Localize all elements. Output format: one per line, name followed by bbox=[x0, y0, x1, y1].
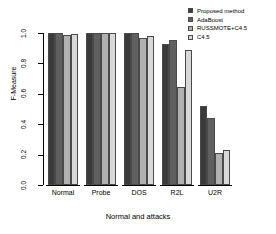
bar bbox=[139, 38, 147, 185]
legend-label: RUSSMOTE+C4.5 bbox=[197, 25, 247, 31]
legend-swatch-icon bbox=[188, 17, 193, 22]
plot-area bbox=[44, 33, 234, 185]
bar bbox=[200, 106, 208, 185]
bar bbox=[71, 34, 79, 185]
legend-item: AdaBoost bbox=[188, 16, 247, 24]
bar bbox=[147, 36, 155, 185]
y-axis-title: F-Measure bbox=[10, 49, 17, 119]
bar bbox=[63, 35, 71, 185]
bar bbox=[185, 50, 193, 185]
y-tick-mark bbox=[38, 124, 43, 125]
legend-swatch-icon bbox=[188, 26, 193, 31]
x-axis-segment bbox=[84, 185, 117, 186]
bar-group bbox=[44, 33, 82, 185]
x-axis-segment bbox=[46, 185, 79, 186]
y-tick-label: 0.8 bbox=[20, 52, 27, 74]
x-tick-label: DOS bbox=[120, 189, 158, 196]
legend-label: Proposed method bbox=[197, 8, 244, 14]
bar bbox=[223, 150, 231, 185]
bar bbox=[55, 33, 63, 185]
bar-group bbox=[82, 33, 120, 185]
bar bbox=[124, 33, 132, 185]
legend-item: RUSSMOTE+C4.5 bbox=[188, 25, 247, 33]
y-tick-mark bbox=[38, 185, 43, 186]
x-tick-label: Normal bbox=[44, 189, 82, 196]
chart-figure: Proposed method AdaBoost RUSSMOTE+C4.5 C… bbox=[0, 0, 276, 234]
bar bbox=[215, 153, 223, 185]
x-tick-label: R2L bbox=[158, 189, 196, 196]
bar bbox=[109, 33, 117, 185]
x-axis-segment bbox=[198, 185, 231, 186]
x-axis-title: Normal and attacks bbox=[0, 212, 276, 221]
legend-item: Proposed method bbox=[188, 7, 247, 15]
bar bbox=[48, 33, 56, 185]
bar bbox=[177, 87, 185, 185]
bar-group bbox=[196, 33, 234, 185]
y-tick-label: 0.6 bbox=[20, 83, 27, 105]
bar bbox=[169, 40, 177, 185]
bar-group bbox=[120, 33, 158, 185]
legend-label: AdaBoost bbox=[197, 17, 223, 23]
y-tick-label: 0.4 bbox=[20, 113, 27, 135]
bar bbox=[162, 44, 170, 185]
y-tick-mark bbox=[38, 155, 43, 156]
bar-group bbox=[158, 33, 196, 185]
y-tick-mark bbox=[38, 94, 43, 95]
x-axis-segment bbox=[160, 185, 193, 186]
x-tick-label: U2R bbox=[196, 189, 234, 196]
legend-swatch-icon bbox=[188, 8, 193, 13]
y-tick-label: 1.0 bbox=[20, 22, 27, 44]
bar bbox=[131, 33, 139, 185]
x-tick-label: Probe bbox=[82, 189, 120, 196]
bar bbox=[207, 118, 215, 185]
bar bbox=[101, 33, 109, 185]
bar bbox=[93, 33, 101, 185]
x-axis-segment bbox=[122, 185, 155, 186]
y-tick-label: 0.0 bbox=[20, 174, 27, 196]
y-tick-mark bbox=[38, 63, 43, 64]
bar bbox=[86, 33, 94, 185]
y-tick-mark bbox=[38, 33, 43, 34]
y-tick-label: 0.2 bbox=[20, 144, 27, 166]
